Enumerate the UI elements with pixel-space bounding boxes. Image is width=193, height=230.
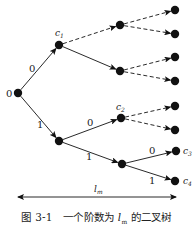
node-n1 — [55, 137, 63, 145]
caption-number: 图 3-1 — [21, 211, 52, 223]
svg-text:c2: c2 — [116, 102, 125, 113]
node-b — [116, 67, 124, 75]
node-c3 — [172, 147, 180, 155]
node-l4 — [171, 77, 179, 85]
edge-label-4: 0 — [149, 145, 155, 156]
edge-label-1: 1 — [37, 119, 43, 130]
edge-root-n1 — [21, 96, 56, 137]
edge-label-2: 0 — [87, 117, 93, 128]
node-label-c4: c4 — [183, 176, 192, 187]
root-label: 0 — [6, 88, 12, 99]
node-label-c3: c3 — [183, 146, 192, 157]
edge-label-5: 1 — [149, 175, 155, 186]
edge-a-l1 — [124, 11, 170, 24]
node-a — [116, 21, 124, 29]
figure-caption: 图 3-1 一个阶数为 lm 的二叉树 — [0, 209, 193, 225]
node-n2 — [118, 160, 126, 168]
node-label-c1: c1 — [55, 28, 64, 39]
edge-b-l4 — [124, 72, 170, 80]
node-root — [14, 89, 22, 97]
caption-text-after: 的二叉树 — [127, 211, 171, 223]
edge-label-3: 1 — [86, 151, 92, 162]
edge-b-l3 — [124, 58, 170, 70]
edge-c1-a — [63, 26, 116, 43]
binary-tree-diagram: 010101 0 c1 c2 c3 c4 lm — [0, 0, 193, 230]
svg-text:c1: c1 — [55, 28, 64, 39]
node-l5 — [171, 102, 179, 110]
edge-label-0: 0 — [29, 63, 35, 74]
edge-root-c1 — [21, 49, 56, 90]
edge-c1-b — [63, 47, 116, 70]
edge-a-l2 — [124, 26, 170, 34]
svg-text:c4: c4 — [183, 176, 192, 187]
caption-text-before: 一个阶数为 — [63, 211, 118, 223]
edge-c2-l5 — [125, 107, 170, 117]
node-l6 — [171, 126, 179, 134]
svg-text:c3: c3 — [183, 146, 192, 157]
node-l1 — [171, 6, 179, 14]
edge-c2-l6 — [125, 119, 170, 129]
node-l3 — [171, 53, 179, 61]
length-label: lm — [94, 184, 103, 195]
node-c1 — [55, 41, 63, 49]
node-c2 — [117, 114, 125, 122]
edge-labels: 010101 — [29, 63, 155, 186]
node-c4 — [171, 177, 179, 185]
node-l2 — [171, 30, 179, 38]
node-label-c2: c2 — [116, 102, 125, 113]
svg-text:lm: lm — [94, 184, 103, 195]
